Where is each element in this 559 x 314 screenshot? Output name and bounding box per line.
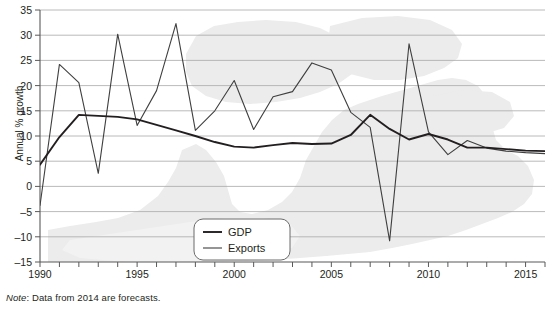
x-tick-label: 1995 (125, 268, 149, 280)
x-tick-label: 1990 (28, 268, 52, 280)
y-tick-label: 25 (20, 54, 32, 66)
y-tick-label: –15 (14, 256, 32, 268)
x-tick-label: 2015 (514, 268, 538, 280)
x-tick-label: 2005 (320, 268, 344, 280)
figure-note: Note: Data from 2014 are forecasts. (6, 292, 161, 303)
y-axis-title: Annual % growth (14, 69, 25, 179)
chart-figure: 35 30 25 20 15 10 5 0 –5 –10 –15 1990199… (0, 0, 559, 314)
y-tick-label: –10 (14, 231, 32, 243)
note-label: Note (6, 292, 26, 303)
x-tick-label: 2010 (417, 268, 441, 280)
y-tick-label: –5 (20, 206, 32, 218)
y-tick-label: 30 (20, 29, 32, 41)
y-tick-label: 5 (26, 155, 32, 167)
legend-label-exports: Exports (228, 242, 266, 254)
plot-area: 35 30 25 20 15 10 5 0 –5 –10 –15 1990199… (0, 0, 559, 288)
x-tick-label: 2000 (223, 268, 247, 280)
legend-label-gdp: GDP (228, 226, 252, 238)
note-text: : Data from 2014 are forecasts. (26, 292, 160, 303)
legend: GDP Exports (194, 219, 290, 260)
y-tick-label: 35 (20, 4, 32, 16)
y-tick-label: 0 (26, 180, 32, 192)
line-chart-svg: 35 30 25 20 15 10 5 0 –5 –10 –15 1990199… (0, 0, 559, 288)
